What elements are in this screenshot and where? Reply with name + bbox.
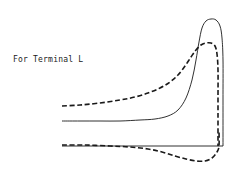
figure-canvas: For Terminal L	[0, 0, 247, 176]
dashed-upper-curve	[62, 43, 218, 146]
solid-upper-curve	[62, 19, 223, 146]
annotation-label-terminal: For Terminal L	[13, 55, 83, 65]
plot-svg	[0, 0, 247, 176]
